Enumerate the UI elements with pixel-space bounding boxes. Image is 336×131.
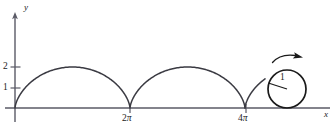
- x-tick-label-2pi: 2π: [122, 114, 132, 124]
- y-tick-label-2: 2: [3, 62, 8, 72]
- rotation-arrow-arc: [273, 55, 297, 62]
- circle-radius-label: 1: [280, 73, 285, 83]
- y-tick-label-1: 1: [3, 83, 8, 93]
- circle-radius-spoke: [268, 83, 287, 89]
- x-tick-4pi-symbol: π: [243, 113, 248, 123]
- y-axis-label: y: [24, 3, 28, 12]
- figure-canvas: [0, 0, 336, 131]
- x-axis-label: x: [324, 110, 328, 119]
- x-tick-2pi-symbol: π: [127, 113, 132, 123]
- cycloid-arch-partial: [245, 79, 265, 108]
- x-tick-label-4pi: 4π: [238, 114, 248, 124]
- cycloid-curve: [15, 67, 245, 108]
- cycloid-figure: y x 2 1 2π 4π 1: [0, 0, 336, 131]
